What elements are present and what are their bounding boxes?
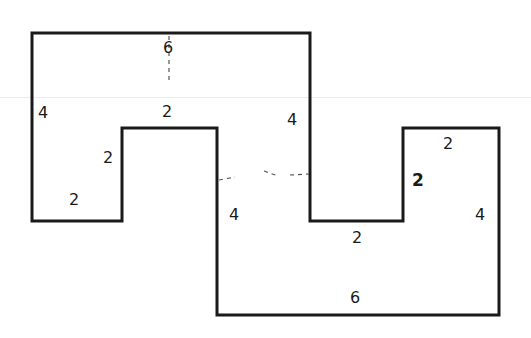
length-label-top: 6 bbox=[163, 40, 173, 56]
length-label-notch-top: 2 bbox=[162, 104, 172, 120]
rectilinear-polygon bbox=[32, 33, 499, 315]
length-label-right-top: 2 bbox=[443, 136, 453, 152]
dashed-line bbox=[264, 171, 278, 176]
dashed-line bbox=[219, 177, 235, 180]
length-label-left-outer: 4 bbox=[38, 105, 48, 121]
length-label-bottom-left: 2 bbox=[69, 192, 79, 208]
length-label-notch-left: 2 bbox=[103, 150, 113, 166]
length-label-middle-right-upper: 4 bbox=[287, 112, 297, 128]
length-label-right-outer: 4 bbox=[475, 207, 485, 223]
dashed-guide-lines bbox=[169, 36, 309, 180]
length-label-right-notch-side: 2 bbox=[412, 172, 424, 189]
length-label-middle-left-lower: 4 bbox=[229, 207, 239, 223]
length-label-bottom: 6 bbox=[350, 290, 360, 306]
dashed-line bbox=[290, 174, 309, 175]
length-label-right-notch-bottom: 2 bbox=[352, 230, 362, 246]
diagram-canvas bbox=[0, 0, 531, 338]
